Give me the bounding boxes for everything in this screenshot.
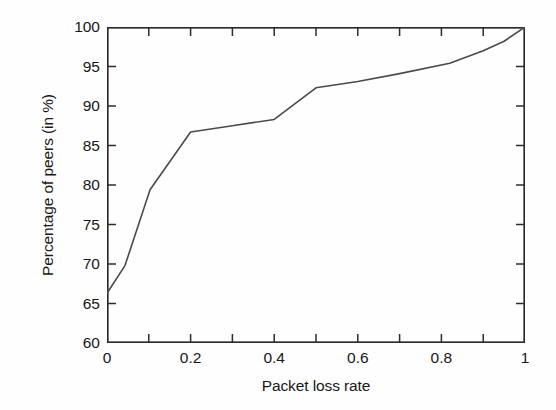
y-tick-label: 100	[74, 18, 100, 36]
x-axis-title: Packet loss rate	[107, 377, 525, 395]
chart-figure: Percentage of peers (in %) Packet loss r…	[0, 0, 556, 410]
y-tick-label: 65	[83, 295, 100, 313]
plot-area: 6065707580859095100 00.20.40.60.81	[107, 27, 525, 343]
x-tick-label: 0.2	[180, 349, 202, 367]
y-axis-title: Percentage of peers (in %)	[39, 55, 63, 315]
y-tick-label: 70	[83, 255, 100, 273]
y-tick-label: 80	[83, 176, 100, 194]
chart-svg	[107, 27, 525, 343]
y-tick-label: 85	[83, 137, 100, 155]
y-tick-label: 90	[83, 97, 100, 115]
y-tick-label: 60	[83, 334, 100, 352]
x-tick-label: 0	[103, 349, 112, 367]
y-tick-label: 95	[83, 58, 100, 76]
plot-frame	[108, 28, 524, 342]
data-line-series-0	[107, 27, 525, 293]
plot-canvas	[107, 27, 525, 343]
x-tick-label: 0.6	[347, 349, 369, 367]
axis-tick-marks	[108, 28, 524, 342]
x-tick-label: 0.8	[431, 349, 453, 367]
y-tick-label: 75	[83, 216, 100, 234]
x-tick-label: 0.4	[263, 349, 285, 367]
x-tick-label: 1	[521, 349, 530, 367]
